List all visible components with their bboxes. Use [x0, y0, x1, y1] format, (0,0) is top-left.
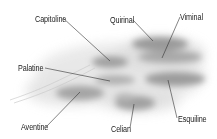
- hill-label-viminal: Viminal: [180, 12, 203, 22]
- hill-label-celian: Celian: [111, 124, 131, 134]
- hill-label-aventine: Aventine: [21, 122, 48, 132]
- hill-label-quirinal: Quirinal: [110, 15, 134, 25]
- seven-hills-diagram: Capitoline Quirinal Viminal Palatine Esq…: [0, 0, 217, 139]
- hill-label-palatine: Palatine: [18, 63, 43, 73]
- hill-label-esquiline: Esquiline: [178, 114, 207, 124]
- hill-label-capitoline: Capitoline: [35, 14, 66, 24]
